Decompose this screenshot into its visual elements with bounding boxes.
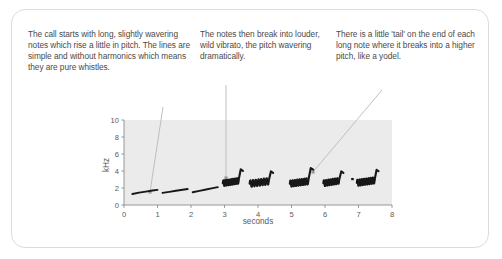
y-axis-ticks: 0246810: [111, 116, 124, 210]
x-tick-label: 7: [356, 210, 360, 219]
trace-vibrato-note-5: [357, 178, 375, 186]
y-tick-label: 2: [115, 184, 119, 193]
y-tick-label: 0: [115, 201, 119, 210]
y-tick-label: 6: [115, 150, 119, 159]
y-tick-label: 10: [111, 116, 119, 125]
trace-vibrato-note-2: [250, 178, 269, 187]
chart-canvas: 0246810 012345678 kHz seconds: [0, 0, 502, 259]
y-tick-label: 8: [115, 133, 119, 142]
blip-short-blip: [351, 178, 354, 180]
x-tick-label: 5: [289, 210, 293, 219]
trace-vibrato-note-4: [323, 178, 339, 186]
x-axis-title: seconds: [243, 217, 274, 226]
x-tick-label: 0: [122, 210, 126, 219]
x-tick-label: 6: [323, 210, 327, 219]
x-tick-label: 8: [390, 210, 394, 219]
x-tick-label: 1: [155, 210, 159, 219]
x-tick-label: 3: [222, 210, 226, 219]
trace-vibrato-note-1: [223, 178, 239, 186]
y-axis-title: kHz: [102, 158, 111, 172]
y-tick-label: 4: [115, 167, 119, 176]
x-tick-label: 2: [189, 210, 193, 219]
trace-vibrato-note-3: [290, 178, 308, 186]
spectrogram-figure: The call starts with long, slightly wave…: [0, 0, 502, 259]
leader-dot-tail: [311, 170, 314, 173]
